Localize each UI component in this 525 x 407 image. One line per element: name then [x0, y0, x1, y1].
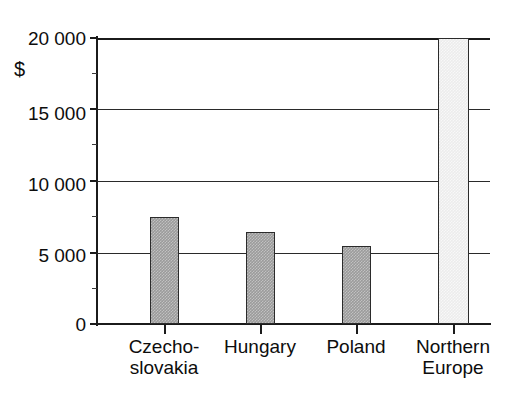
y-tick-20000: [90, 37, 97, 39]
y-tick-5000: [90, 252, 97, 254]
gridline-15000: [97, 109, 490, 110]
bar-hungary: [246, 232, 275, 324]
bar-chart-figure: 20 000 15 000 10 000 5 000 0 $ Czecho- s…: [0, 0, 525, 407]
bar-czechoslovakia: [150, 217, 179, 324]
gridline-10000: [97, 181, 490, 182]
y-tick-label-15000: 15 000: [28, 104, 86, 123]
y-tick-0: [90, 323, 97, 325]
bar-northern-europe: [438, 38, 469, 324]
x-tick-northern-europe: [453, 325, 455, 334]
y-tick-15000: [90, 108, 97, 110]
y-tick-label-5000: 5 000: [38, 246, 86, 265]
y-tick-10000: [90, 180, 97, 182]
bar-poland: [342, 246, 371, 324]
x-tick-poland: [356, 325, 358, 334]
x-tick-hungary: [260, 325, 262, 334]
y-tick-label-20000: 20 000: [28, 29, 86, 48]
plot-area: [97, 38, 490, 324]
x-label-northern-europe: Northern Europe: [392, 336, 514, 379]
x-tick-czechoslovakia: [164, 325, 166, 334]
y-axis-unit-label: $: [14, 59, 25, 79]
y-tick-label-0: 0: [75, 315, 86, 334]
y-tick-label-10000: 10 000: [28, 175, 86, 194]
gridline-20000: [97, 38, 490, 40]
y-axis-label-group: 20 000 15 000 10 000 5 000 0: [0, 0, 86, 407]
